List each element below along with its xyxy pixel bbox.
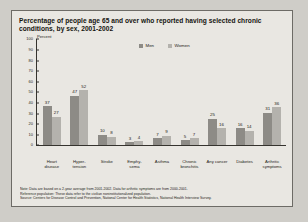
y-axis-tick-mark xyxy=(36,50,39,51)
y-axis-tick-label: 90 xyxy=(29,48,33,52)
bar-value-label: 14 xyxy=(247,124,252,129)
bar-value-label: 16 xyxy=(219,122,224,127)
bar[interactable]: 16 xyxy=(217,128,226,145)
y-axis-tick-mark xyxy=(36,81,39,82)
y-axis-tick-mark xyxy=(36,145,39,146)
bar-fill xyxy=(79,90,88,145)
y-axis-tick-label: 70 xyxy=(29,69,33,73)
bar-fill xyxy=(98,135,107,146)
x-axis-tick-label: Diabetes xyxy=(233,159,257,169)
chart-note: Source: Centers for Disease Control and … xyxy=(20,196,285,201)
bar[interactable]: 16 xyxy=(236,128,245,145)
chart-title: Percentage of people age 65 and over who… xyxy=(19,17,285,33)
bar-fill xyxy=(272,107,281,145)
bar-value-label: 47 xyxy=(72,89,77,94)
bar[interactable]: 27 xyxy=(52,117,61,146)
y-axis-tick-label: 0 xyxy=(31,143,33,147)
bar[interactable]: 9 xyxy=(162,136,171,146)
bar-value-label: 9 xyxy=(165,129,167,134)
x-axis-tick-label: Emphy- sema xyxy=(122,159,146,169)
bar-group: 3727 xyxy=(40,39,64,145)
bar[interactable]: 4 xyxy=(134,141,143,145)
x-axis-tick-label: Any cancer xyxy=(205,159,229,169)
bar-fill xyxy=(236,128,245,145)
bar-fill xyxy=(181,140,190,145)
plot-area: MenWomen 0102030405060708090100 37274752… xyxy=(19,39,287,157)
bar-value-label: 31 xyxy=(265,106,270,111)
bar-value-label: 5 xyxy=(184,134,186,139)
x-axis-tick-label: Heart disease xyxy=(40,159,64,169)
bar-value-label: 25 xyxy=(210,112,215,117)
bar-fill xyxy=(190,138,199,145)
bar[interactable]: 52 xyxy=(79,90,88,145)
y-axis-tick-label: 10 xyxy=(29,133,33,137)
bar[interactable]: 3 xyxy=(125,142,134,145)
bar-fill xyxy=(70,96,79,146)
bar[interactable]: 8 xyxy=(107,137,116,145)
bar-fill xyxy=(107,137,116,145)
bar-group: 57 xyxy=(178,39,202,145)
bar[interactable]: 7 xyxy=(190,138,199,145)
bar-fill xyxy=(217,128,226,145)
bar-value-label: 7 xyxy=(193,132,195,137)
bar[interactable]: 14 xyxy=(245,131,254,146)
bar-value-label: 36 xyxy=(274,101,279,106)
y-axis-tick-label: 40 xyxy=(29,101,33,105)
bar-fill xyxy=(245,131,254,146)
bar[interactable]: 36 xyxy=(272,107,281,145)
x-axis-tick-label: Asthma xyxy=(150,159,174,169)
bar-value-label: 8 xyxy=(110,130,112,135)
bar-value-label: 37 xyxy=(45,100,50,105)
y-axis-tick-mark xyxy=(36,71,39,72)
bar-group: 34 xyxy=(122,39,146,145)
bar-value-label: 10 xyxy=(100,128,105,133)
bar[interactable]: 25 xyxy=(208,119,217,146)
bar-fill xyxy=(52,117,61,146)
y-axis-tick-label: 80 xyxy=(29,59,33,63)
bar-fill xyxy=(153,138,162,145)
bar-fill xyxy=(43,106,52,145)
x-axis-line xyxy=(36,145,286,146)
bar-groups: 37274752108347957251616143136 xyxy=(38,39,286,145)
y-axis-tick-mark xyxy=(36,124,39,125)
x-axis-tick-label: Chronic bronchitis xyxy=(178,159,202,169)
bar-fill xyxy=(134,141,143,145)
bar-group: 4752 xyxy=(67,39,91,145)
bar-value-label: 16 xyxy=(238,122,243,127)
bar[interactable]: 31 xyxy=(263,113,272,146)
y-axis-tick-mark xyxy=(36,60,39,61)
bar-group: 108 xyxy=(95,39,119,145)
y-axis-tick-label: 20 xyxy=(29,122,33,126)
bar[interactable]: 47 xyxy=(70,96,79,146)
chart-notes: Note: Data are based on a 2-year average… xyxy=(20,187,285,201)
bar-value-label: 7 xyxy=(156,132,158,137)
bar-value-label: 3 xyxy=(129,136,131,141)
x-axis-tick-label: Arthritic symptoms xyxy=(260,159,284,169)
y-axis-tick-label: 30 xyxy=(29,112,33,116)
bar-value-label: 27 xyxy=(54,110,59,115)
bar-group: 2516 xyxy=(205,39,229,145)
bar-group: 79 xyxy=(150,39,174,145)
bar-value-label: 52 xyxy=(81,84,86,89)
y-axis-tick-mark xyxy=(36,113,39,114)
y-axis-tick-label: 60 xyxy=(29,80,33,84)
bar-group: 3136 xyxy=(260,39,284,145)
bar-fill xyxy=(125,142,134,145)
bar[interactable]: 5 xyxy=(181,140,190,145)
x-axis-tick-label: Stroke xyxy=(95,159,119,169)
chart-panel: Percentage of people age 65 and over who… xyxy=(11,10,293,207)
y-axis-tick-label: 100 xyxy=(26,37,33,41)
bar[interactable]: 7 xyxy=(153,138,162,145)
bar[interactable]: 37 xyxy=(43,106,52,145)
y-axis: 0102030405060708090100 xyxy=(19,39,37,145)
y-axis-tick-mark xyxy=(36,103,39,104)
y-axis-tick-mark xyxy=(36,134,39,135)
bar[interactable]: 10 xyxy=(98,135,107,146)
bar-fill xyxy=(208,119,217,146)
bar-fill xyxy=(263,113,272,146)
y-axis-tick-mark xyxy=(36,92,39,93)
bar-fill xyxy=(162,136,171,146)
x-axis-tick-label: Hyper- tension xyxy=(67,159,91,169)
x-axis-labels: Heart diseaseHyper- tensionStrokeEmphy- … xyxy=(38,159,286,169)
bar-group: 1614 xyxy=(233,39,257,145)
